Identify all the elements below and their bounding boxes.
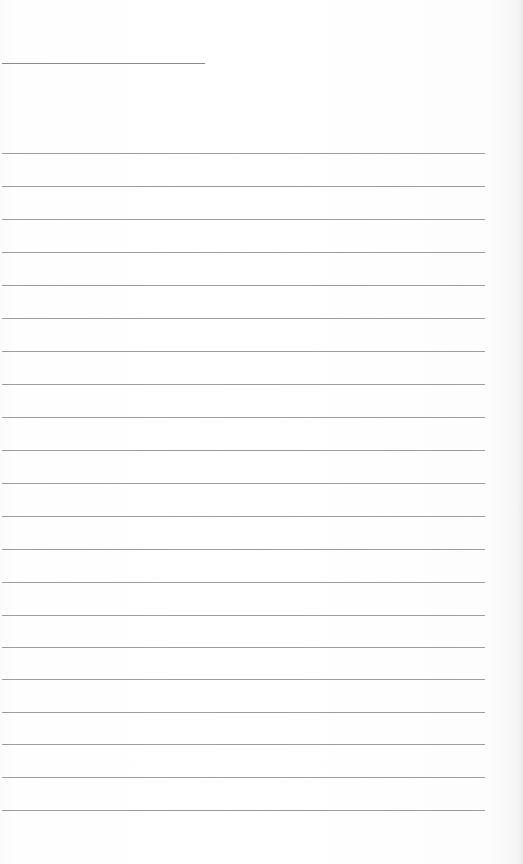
ruled-line (2, 777, 485, 778)
ruled-line (2, 582, 485, 583)
ruled-line (2, 450, 485, 451)
ruled-line (2, 744, 485, 745)
ruled-line (2, 647, 485, 648)
title-line (2, 63, 205, 64)
ruled-line (2, 219, 485, 220)
lined-paper-sheet (0, 0, 523, 864)
ruled-line (2, 417, 485, 418)
ruled-line (2, 615, 485, 616)
ruled-line (2, 186, 485, 187)
ruled-line (2, 483, 485, 484)
ruled-line (2, 679, 485, 680)
ruled-line (2, 318, 485, 319)
ruled-line (2, 153, 485, 154)
ruled-line (2, 351, 485, 352)
ruled-line (2, 285, 485, 286)
ruled-line (2, 549, 485, 550)
ruled-line (2, 810, 485, 811)
ruled-line (2, 384, 485, 385)
paper-edge-shadow (517, 0, 523, 864)
ruled-line (2, 712, 485, 713)
ruled-line (2, 252, 485, 253)
ruled-line (2, 516, 485, 517)
